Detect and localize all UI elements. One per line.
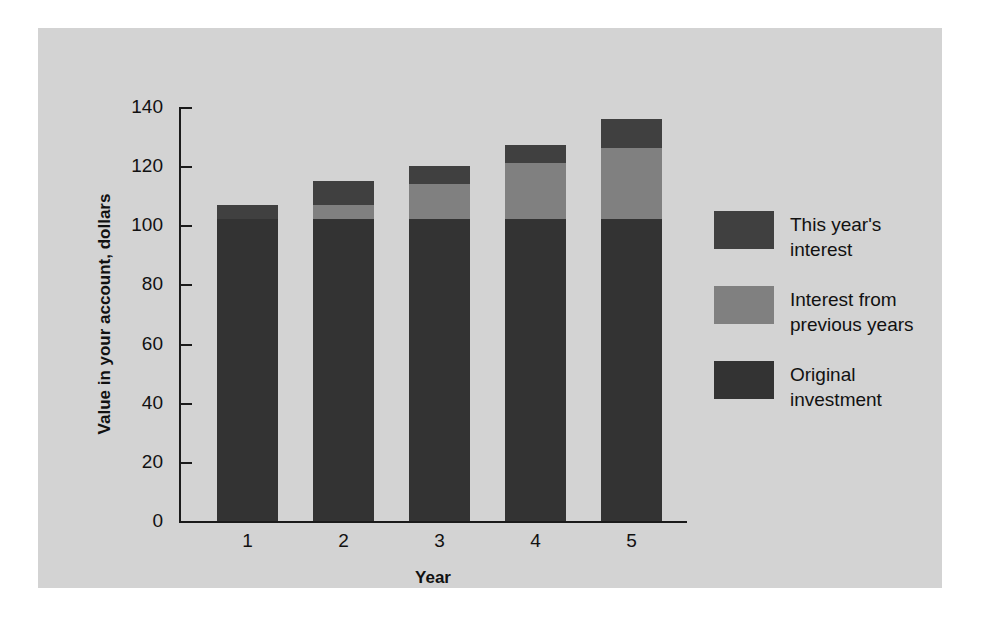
legend-swatch (714, 286, 774, 324)
legend-label: Originalinvestment (790, 361, 882, 412)
legend-label-line: investment (790, 387, 882, 412)
x-tick-label: 3 (434, 530, 445, 552)
chart-screenshot: Value in your account, dollars 020406080… (0, 0, 986, 618)
bar-segment (409, 219, 470, 521)
bar-segment (601, 148, 662, 219)
bar-segment (313, 181, 374, 205)
y-tick-label: 0 (152, 510, 163, 532)
bar-year-2 (313, 181, 374, 521)
legend-swatch (714, 211, 774, 249)
bar-segment (409, 184, 470, 219)
bar-segment (313, 205, 374, 220)
bar-segment (217, 205, 278, 220)
bar-segment (505, 219, 566, 521)
bar-year-3 (409, 166, 470, 521)
legend-item: This year'sinterest (714, 211, 964, 262)
bar-segment (601, 219, 662, 521)
y-tick-label: 140 (131, 96, 163, 118)
chart-panel: Value in your account, dollars 020406080… (38, 28, 942, 588)
legend-label-line: This year's (790, 212, 881, 237)
y-tick-mark (181, 521, 192, 523)
legend-label-line: previous years (790, 312, 914, 337)
x-tick-label: 4 (530, 530, 541, 552)
legend-label-line: Original (790, 362, 882, 387)
bar-segment (601, 119, 662, 149)
bar-segment (409, 166, 470, 184)
bar-segment (505, 163, 566, 219)
bar-segment (217, 219, 278, 521)
bar-year-1 (217, 205, 278, 521)
plot-area (179, 107, 684, 521)
legend-swatch (714, 361, 774, 399)
legend-item: Interest fromprevious years (714, 286, 964, 337)
y-tick-label: 20 (142, 451, 163, 473)
x-tick-label: 5 (626, 530, 637, 552)
x-tick-label: 2 (338, 530, 349, 552)
x-axis-label: Year (179, 568, 687, 588)
legend-label: Interest fromprevious years (790, 286, 914, 337)
x-tick-label: 1 (242, 530, 253, 552)
bar-year-5 (601, 119, 662, 521)
legend-label-line: interest (790, 237, 881, 262)
y-tick-label: 100 (131, 214, 163, 236)
chart-legend: This year'sinterestInterest fromprevious… (714, 211, 964, 436)
y-tick-label: 60 (142, 333, 163, 355)
y-tick-label: 80 (142, 273, 163, 295)
legend-label: This year'sinterest (790, 211, 881, 262)
y-axis-label: Value in your account, dollars (92, 107, 118, 521)
x-axis-line (179, 521, 687, 523)
y-tick-label: 120 (131, 155, 163, 177)
legend-item: Originalinvestment (714, 361, 964, 412)
bar-segment (313, 219, 374, 521)
legend-label-line: Interest from (790, 287, 914, 312)
bar-year-4 (505, 145, 566, 521)
y-tick-label: 40 (142, 392, 163, 414)
y-axis-label-text: Value in your account, dollars (95, 194, 115, 435)
bar-segment (505, 145, 566, 163)
